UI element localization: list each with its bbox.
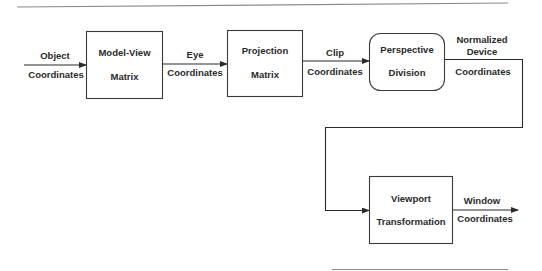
stage-label-line2: Matrix	[111, 71, 140, 82]
edge-label-bottom: Coordinates	[28, 69, 83, 80]
edge-label-top1: Normalized	[456, 34, 507, 45]
stage-label-line2: Transformation	[376, 216, 445, 227]
stage-perspective-division: Perspective Division	[370, 34, 445, 91]
stage-box-rounded	[370, 34, 445, 91]
edge-label-top: Clip	[326, 47, 344, 58]
edge-clip-coordinates: Clip Coordinates	[303, 47, 370, 77]
stage-label-line1: Viewport	[391, 193, 432, 204]
edge-window-coordinates: Window Coordinates	[453, 195, 519, 224]
edge-label-bottom: Coordinates	[307, 66, 362, 77]
stage-label-line2: Matrix	[251, 69, 280, 80]
stage-label-line2: Division	[389, 67, 426, 78]
stage-box	[87, 32, 163, 99]
stage-label-line1: Projection	[242, 45, 289, 56]
stage-projection-matrix: Projection Matrix	[228, 31, 303, 97]
stage-viewport-transformation: Viewport Transformation	[370, 177, 453, 244]
stage-label-line1: Perspective	[380, 44, 433, 55]
edge-label-top: Window	[464, 195, 501, 206]
edge-label-bottom: Coordinates	[457, 213, 512, 224]
edge-label-top: Eye	[187, 49, 204, 60]
edge-label-top2: Device	[467, 46, 498, 57]
stage-box	[370, 177, 453, 244]
pipeline-diagram: Object Coordinates Model-View Matrix Eye…	[0, 0, 542, 271]
edge-label-bottom: Coordinates	[455, 66, 510, 77]
edge-label-top: Object	[40, 50, 70, 61]
edge-label-bottom: Coordinates	[167, 67, 222, 78]
stage-box	[228, 31, 303, 97]
edge-eye-coordinates: Eye Coordinates	[163, 49, 228, 78]
stage-label-line1: Model-View	[98, 47, 151, 58]
arrow-perspective-to-viewport	[326, 60, 523, 211]
top-rule	[17, 3, 508, 7]
edge-object-coordinates: Object Coordinates	[24, 50, 86, 80]
stage-model-view-matrix: Model-View Matrix	[87, 32, 163, 99]
